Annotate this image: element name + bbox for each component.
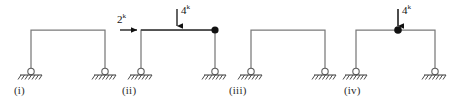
caption-frame-i: (i) [14,84,25,96]
frame-i-member-outline [31,30,105,69]
frame-iii [238,30,336,80]
frame-ii-horizontal-load-label: 2k [117,12,126,25]
frame-iv-support-left [343,68,367,79]
frame-iv-joint-marker [394,26,402,34]
frame-iii-support-right [312,68,336,79]
frame-i-support-left [18,68,42,79]
frame-iv [343,9,446,80]
frame-iv-member-outline [356,30,435,69]
caption-frame-iii: (iii) [229,84,247,96]
frame-diagram-canvas: 2k 4k 4k (i) (ii) (iii) (iv) [0,0,459,104]
caption-frame-ii: (ii) [122,84,136,96]
frame-i [18,30,116,80]
frame-iii-member-outline [251,30,325,69]
frame-iv-support-right [422,68,446,79]
caption-frame-iv: (iv) [344,84,361,96]
frame-ii-vertical-load-label: 4k [181,3,190,16]
frame-iv-vertical-load-label: 4k [402,3,411,16]
frame-i-support-right [92,68,116,79]
frame-ii-member-outline [141,30,215,69]
frame-iii-support-left [238,68,262,79]
frame-ii-support-left [128,68,152,79]
frame-ii-support-right [202,68,226,79]
frame-ii-joint-marker [211,26,218,33]
frame-ii [120,9,226,80]
